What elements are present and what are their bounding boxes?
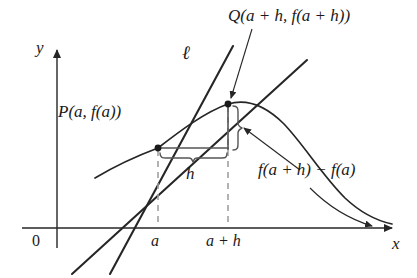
rise-brace: [233, 106, 242, 150]
x-tick-label-a-plus-h: a + h: [206, 232, 241, 250]
x-axis-label: x: [392, 234, 400, 254]
tangent-line-label: ℓ: [182, 42, 190, 64]
x-tick-label-a: a: [151, 232, 159, 250]
leader-arrow-to-q: [231, 29, 252, 98]
run-rise-segments-group: [158, 104, 229, 150]
point-q-label: Q(a + h, f(a + h)): [228, 6, 350, 26]
run-h-label: h: [186, 164, 195, 184]
derivative-secant-tangent-figure: Q(a + h, f(a + h)) P(a, f(a)) f(a + h) −…: [0, 0, 417, 278]
point-q-marker: [225, 101, 232, 108]
origin-label: 0: [32, 232, 40, 250]
axes-group: [22, 50, 392, 248]
point-p-marker: [155, 145, 162, 152]
point-p-label: P(a, f(a)): [58, 102, 121, 122]
rise-difference-label: f(a + h) − f(a): [258, 160, 356, 180]
y-axis-label: y: [36, 38, 44, 58]
